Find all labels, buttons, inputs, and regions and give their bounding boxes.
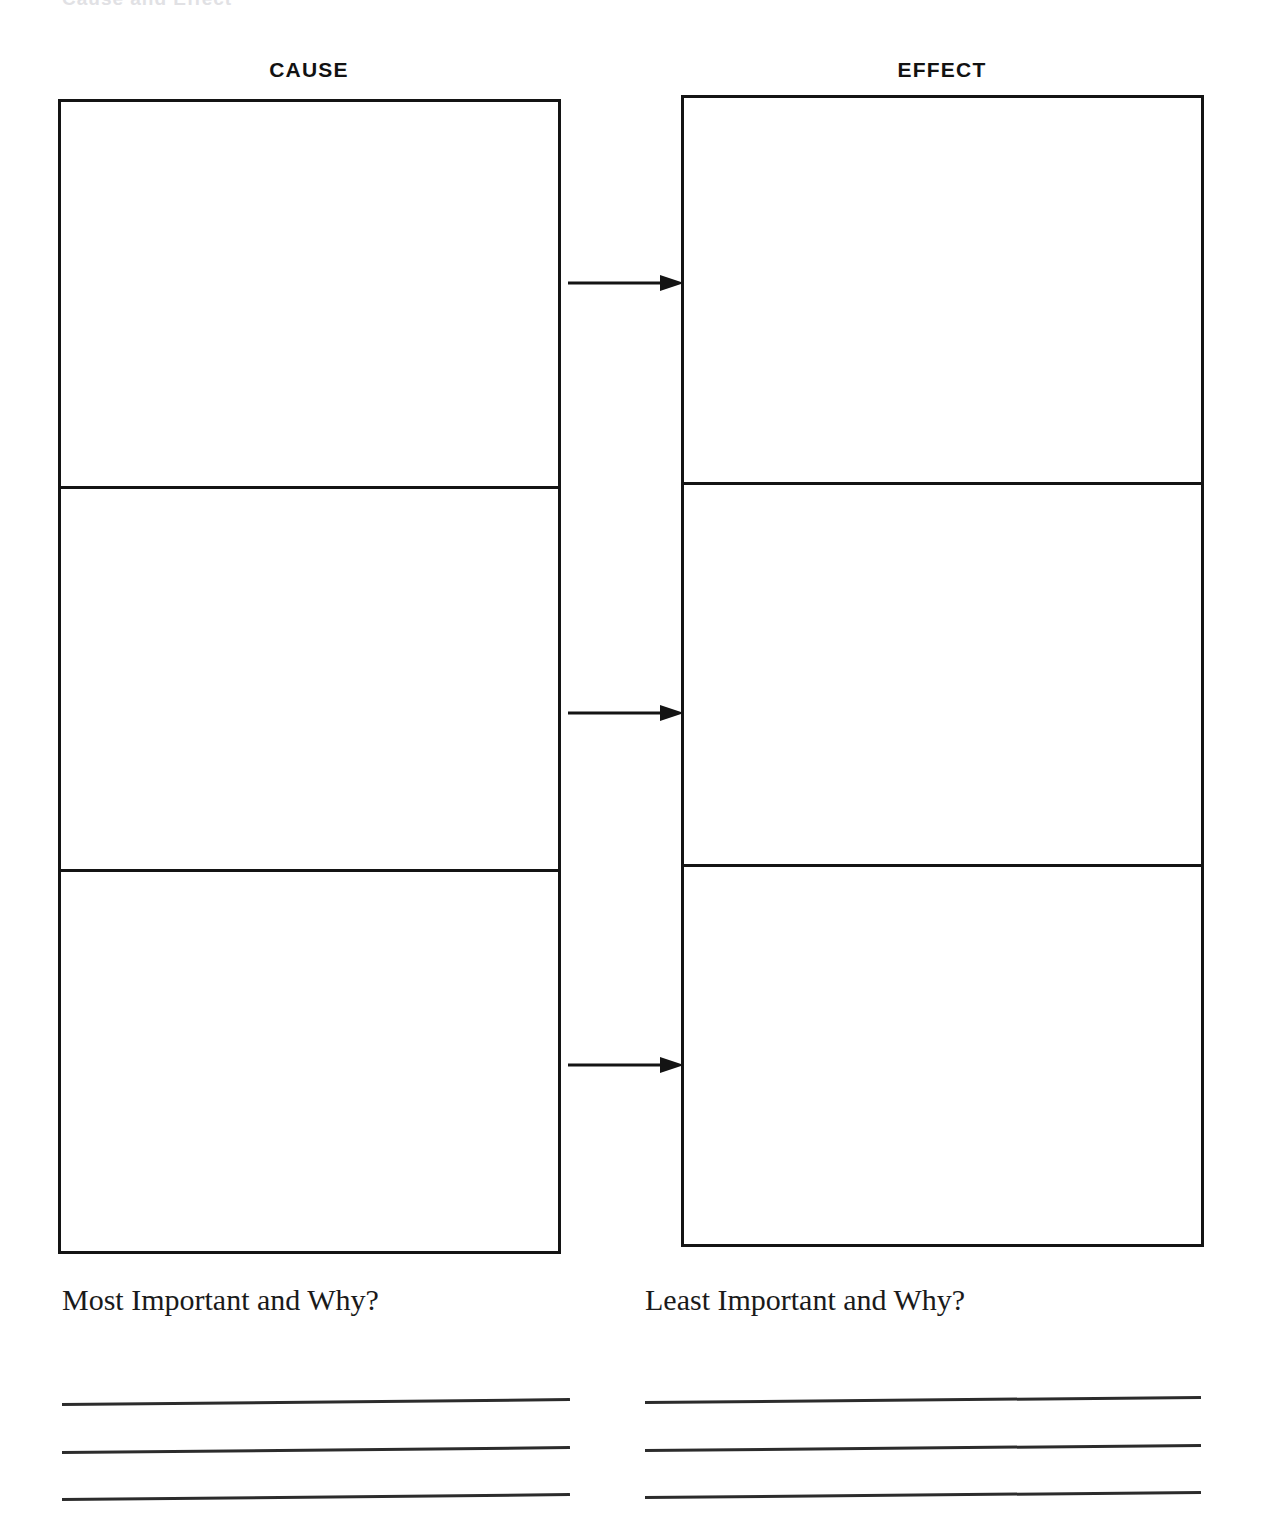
effect-cell-1[interactable] xyxy=(684,98,1201,482)
cause-cell-1[interactable] xyxy=(61,102,558,486)
cause-box xyxy=(58,99,561,1254)
effect-cell-2[interactable] xyxy=(684,482,1201,864)
cause-cell-2[interactable] xyxy=(61,486,558,869)
effect-cell-3[interactable] xyxy=(684,864,1201,1244)
arrow-right-icon-1 xyxy=(568,272,684,294)
answer-line[interactable] xyxy=(62,1398,570,1406)
scan-artifact-text: Cause and Effect xyxy=(62,0,402,6)
prompt-least-important-label: Least Important and Why? xyxy=(645,1283,965,1317)
worksheet-sheet: Cause and Effect CAUSE EFFECT Most Impor… xyxy=(0,0,1268,1527)
column-header-cause: CAUSE xyxy=(58,58,560,82)
answer-line[interactable] xyxy=(645,1396,1201,1404)
arrow-right-icon-3 xyxy=(568,1054,684,1076)
cause-cell-3[interactable] xyxy=(61,869,558,1251)
column-header-effect: EFFECT xyxy=(681,58,1203,82)
answer-line[interactable] xyxy=(62,1493,570,1501)
answer-line[interactable] xyxy=(645,1491,1201,1499)
prompt-most-important-label: Most Important and Why? xyxy=(62,1283,379,1317)
arrow-right-icon-2 xyxy=(568,702,684,724)
answer-line[interactable] xyxy=(645,1444,1201,1452)
answer-line[interactable] xyxy=(62,1446,570,1454)
effect-box xyxy=(681,95,1204,1247)
